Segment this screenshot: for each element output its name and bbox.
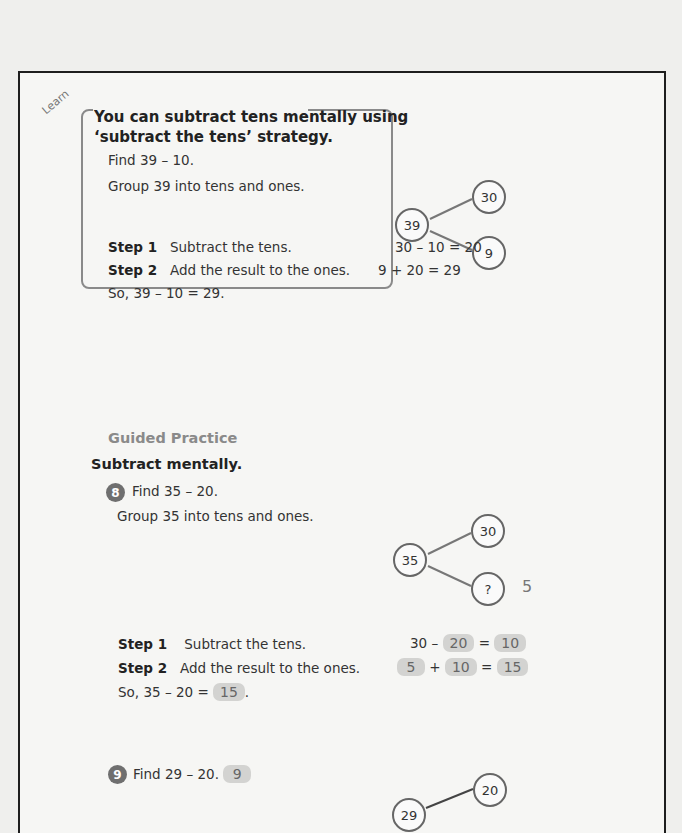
answer-box[interactable]: 9 (223, 765, 251, 783)
find-text: Find 29 – 20. (133, 766, 219, 782)
equals-sign: = (479, 635, 490, 651)
learn-step1: Step 1 Subtract the tens. (108, 239, 292, 255)
bond-whole-35: 35 (393, 543, 427, 577)
equation-text: 30 – (410, 635, 438, 651)
step-text: Add the result to the ones. (170, 262, 350, 278)
answer-box[interactable]: 10 (445, 658, 477, 676)
q9-find: Find 29 – 20. 9 (133, 765, 251, 783)
period: . (245, 684, 249, 700)
conclusion-text: So, 35 – 20 = (118, 684, 209, 700)
learn-step1-equation: 30 – 10 = 20 (395, 239, 482, 255)
bond-tens-20: 20 (473, 773, 507, 807)
bond-ones-unknown: ? (471, 572, 505, 606)
q8-group: Group 35 into tens and ones. (117, 508, 314, 524)
answer-box[interactable]: 15 (497, 658, 529, 676)
step-text: Subtract the tens. (170, 239, 292, 255)
q8-step1: Step 1 Subtract the tens. (118, 636, 306, 652)
answer-box[interactable]: 10 (494, 634, 526, 652)
q8-step2-equation: 5 + 10 = 15 (397, 658, 528, 676)
step-text: Subtract the tens. (184, 636, 306, 652)
bond-tens-30: 30 (471, 514, 505, 548)
question-number-8: 8 (106, 483, 125, 502)
step-label: Step 2 (108, 262, 157, 278)
q8-find: Find 35 – 20. (132, 483, 218, 499)
bond-tens-30: 30 (472, 180, 506, 214)
bond-whole-29: 29 (392, 798, 426, 832)
q8-step1-equation: 30 – 20 = 10 (410, 634, 526, 652)
learn-conclusion: So, 39 – 10 = 29. (108, 285, 224, 301)
step-label: Step 2 (118, 660, 167, 676)
answer-box[interactable]: 5 (397, 658, 425, 676)
plus-sign: + (429, 659, 440, 675)
step-label: Step 1 (108, 239, 157, 255)
answer-box[interactable]: 15 (213, 683, 245, 701)
guided-practice-heading: Guided Practice (108, 430, 237, 446)
step-label: Step 1 (118, 636, 167, 652)
question-number-9: 9 (108, 765, 127, 784)
step-text: Add the result to the ones. (180, 660, 360, 676)
bond-whole-39: 39 (395, 208, 429, 242)
answer-box[interactable]: 20 (443, 634, 475, 652)
equals-sign: = (481, 659, 492, 675)
learn-step2-equation: 9 + 20 = 29 (378, 262, 461, 278)
q8-step2: Step 2 Add the result to the ones. (118, 660, 360, 676)
guided-instruction: Subtract mentally. (91, 456, 242, 472)
bond-ones-answer: 5 (522, 577, 532, 596)
learn-step2: Step 2 Add the result to the ones. (108, 262, 350, 278)
q8-conclusion: So, 35 – 20 = 15. (118, 683, 249, 701)
